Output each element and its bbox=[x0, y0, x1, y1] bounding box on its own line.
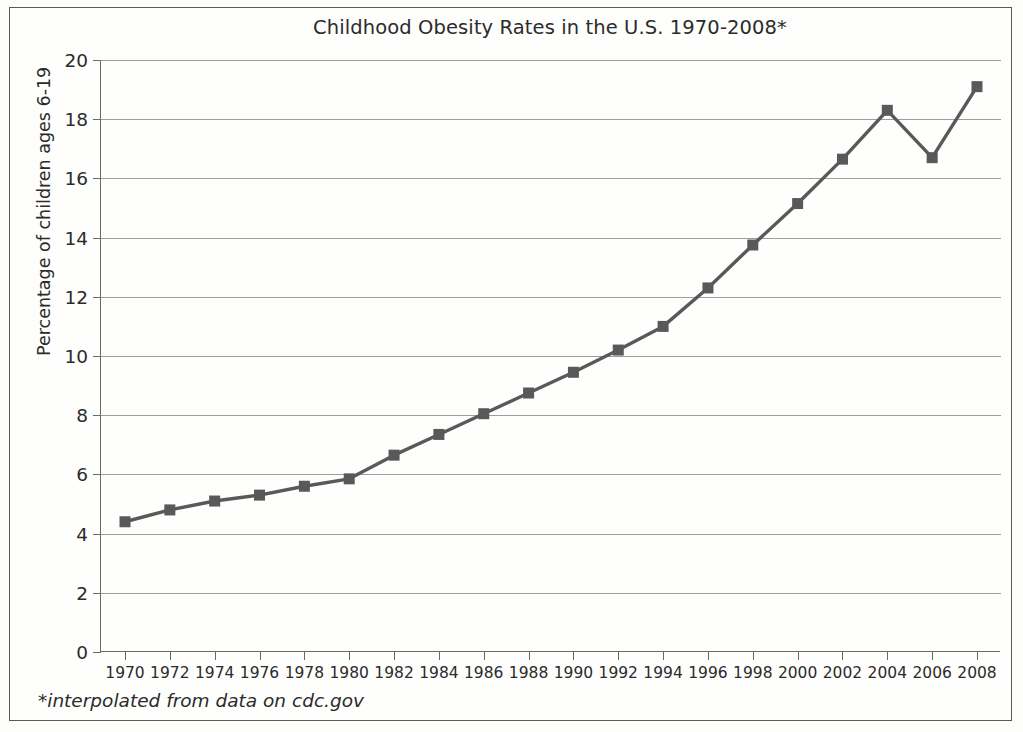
x-axis-label: 1970 bbox=[105, 664, 144, 682]
data-point-marker bbox=[120, 516, 131, 527]
data-point-marker bbox=[344, 473, 355, 484]
plot-area: 02468101214161820 1970197219741976197819… bbox=[100, 60, 1000, 652]
data-point-marker bbox=[478, 408, 489, 419]
x-tick-mark bbox=[484, 652, 485, 660]
x-tick-mark bbox=[304, 652, 305, 660]
y-tick-mark bbox=[93, 119, 101, 120]
y-axis-title: Percentage of children ages 6-19 bbox=[34, 67, 54, 356]
y-axis-label: 18 bbox=[64, 109, 88, 130]
x-axis-label: 2002 bbox=[823, 664, 862, 682]
x-axis-label: 2000 bbox=[778, 664, 817, 682]
series-line bbox=[125, 87, 977, 522]
y-tick-mark bbox=[93, 60, 101, 61]
data-point-marker bbox=[164, 504, 175, 515]
x-axis-label: 2008 bbox=[957, 664, 996, 682]
x-axis-label: 1996 bbox=[688, 664, 727, 682]
data-point-marker bbox=[792, 198, 803, 209]
y-axis-label: 0 bbox=[76, 642, 88, 663]
y-tick-mark bbox=[93, 593, 101, 594]
x-axis-label: 1974 bbox=[195, 664, 234, 682]
y-axis-label: 10 bbox=[64, 346, 88, 367]
x-axis-label: 1982 bbox=[374, 664, 413, 682]
x-axis-label: 1978 bbox=[285, 664, 324, 682]
data-point-marker bbox=[702, 282, 713, 293]
x-tick-mark bbox=[349, 652, 350, 660]
x-tick-mark bbox=[170, 652, 171, 660]
x-axis-label: 1994 bbox=[643, 664, 682, 682]
data-point-marker bbox=[747, 240, 758, 251]
x-tick-mark bbox=[260, 652, 261, 660]
x-tick-mark bbox=[842, 652, 843, 660]
y-tick-mark bbox=[93, 474, 101, 475]
data-point-marker bbox=[389, 450, 400, 461]
x-axis-label: 2006 bbox=[912, 664, 951, 682]
x-axis-label: 1980 bbox=[329, 664, 368, 682]
x-tick-mark bbox=[529, 652, 530, 660]
x-tick-mark bbox=[125, 652, 126, 660]
data-point-marker bbox=[209, 496, 220, 507]
y-tick-mark bbox=[93, 356, 101, 357]
data-point-marker bbox=[927, 152, 938, 163]
x-axis-label: 1988 bbox=[509, 664, 548, 682]
x-tick-mark bbox=[439, 652, 440, 660]
y-tick-mark bbox=[93, 178, 101, 179]
x-tick-mark bbox=[573, 652, 574, 660]
y-tick-mark bbox=[93, 534, 101, 535]
y-tick-mark bbox=[93, 238, 101, 239]
x-axis-label: 1986 bbox=[464, 664, 503, 682]
data-point-marker bbox=[568, 367, 579, 378]
y-axis-label: 2 bbox=[76, 582, 88, 603]
x-tick-mark bbox=[798, 652, 799, 660]
chart-footnote: *interpolated from data on cdc.gov bbox=[38, 690, 364, 711]
x-axis-label: 1992 bbox=[599, 664, 638, 682]
data-point-marker bbox=[613, 345, 624, 356]
y-axis-label: 8 bbox=[76, 405, 88, 426]
data-point-marker bbox=[658, 321, 669, 332]
chart-page: Childhood Obesity Rates in the U.S. 1970… bbox=[0, 0, 1023, 732]
y-tick-mark bbox=[93, 415, 101, 416]
y-axis-label: 20 bbox=[64, 50, 88, 71]
y-axis-label: 12 bbox=[64, 286, 88, 307]
x-tick-mark bbox=[215, 652, 216, 660]
data-point-marker bbox=[299, 481, 310, 492]
data-series-obesity-rate bbox=[101, 60, 1001, 652]
x-axis-label: 1972 bbox=[150, 664, 189, 682]
y-axis-label: 16 bbox=[64, 168, 88, 189]
x-axis-label: 2004 bbox=[868, 664, 907, 682]
chart-title: Childhood Obesity Rates in the U.S. 1970… bbox=[100, 16, 1000, 39]
x-tick-mark bbox=[394, 652, 395, 660]
x-axis-label: 1984 bbox=[419, 664, 458, 682]
x-axis-label: 1990 bbox=[554, 664, 593, 682]
x-tick-mark bbox=[708, 652, 709, 660]
x-axis-label: 1976 bbox=[240, 664, 279, 682]
x-tick-mark bbox=[663, 652, 664, 660]
y-axis-label: 14 bbox=[64, 227, 88, 248]
x-tick-mark bbox=[753, 652, 754, 660]
x-axis-label: 1998 bbox=[733, 664, 772, 682]
x-tick-mark bbox=[977, 652, 978, 660]
data-point-marker bbox=[972, 81, 983, 92]
y-axis-label: 6 bbox=[76, 464, 88, 485]
x-tick-mark bbox=[887, 652, 888, 660]
data-point-marker bbox=[523, 388, 534, 399]
x-tick-mark bbox=[932, 652, 933, 660]
data-point-marker bbox=[837, 154, 848, 165]
data-point-marker bbox=[433, 429, 444, 440]
data-point-marker bbox=[882, 105, 893, 116]
y-tick-mark bbox=[93, 652, 101, 653]
y-tick-mark bbox=[93, 297, 101, 298]
data-point-marker bbox=[254, 490, 265, 501]
y-axis-label: 4 bbox=[76, 523, 88, 544]
x-tick-mark bbox=[618, 652, 619, 660]
